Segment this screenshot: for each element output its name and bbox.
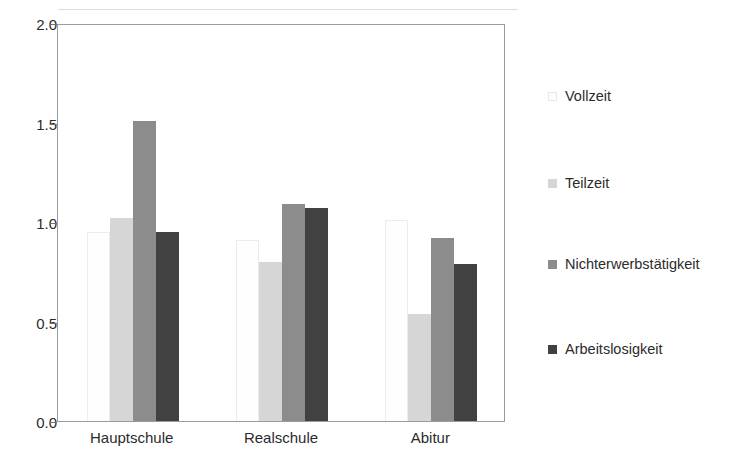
bar-group (58, 25, 207, 421)
legend-item: Teilzeit (548, 176, 609, 191)
legend-label: Nichterwerbstätigkeit (565, 257, 700, 272)
x-tick-label: Realschule (244, 430, 318, 445)
bar (282, 204, 305, 421)
y-tick-mark (50, 124, 57, 125)
bar-group (357, 25, 506, 421)
legend-swatch-icon (548, 345, 557, 354)
chart-legend: VollzeitTeilzeitNichterwerbstätigkeitArb… (548, 24, 735, 422)
legend-label: Vollzeit (565, 89, 611, 104)
legend-item: Arbeitslosigkeit (548, 342, 663, 357)
bar (87, 232, 110, 421)
legend-swatch-icon (548, 92, 557, 101)
y-tick-mark (50, 24, 57, 25)
bar (431, 238, 454, 421)
x-tick-label: Hauptschule (90, 430, 173, 445)
legend-label: Teilzeit (565, 176, 609, 191)
bar-group (207, 25, 356, 421)
bar (133, 121, 156, 421)
bar (236, 240, 259, 421)
bar (305, 208, 328, 421)
legend-swatch-icon (548, 260, 557, 269)
y-axis: 0.00.51.01.52.0 (0, 24, 57, 422)
legend-swatch-icon (548, 179, 557, 188)
y-tick-mark (50, 323, 57, 324)
x-tick-label: Abitur (411, 430, 450, 445)
legend-label: Arbeitslosigkeit (565, 342, 663, 357)
y-tick-mark (50, 422, 57, 423)
bar (259, 262, 282, 421)
legend-item: Nichterwerbstätigkeit (548, 257, 700, 272)
bar (408, 314, 431, 421)
legend-item: Vollzeit (548, 89, 611, 104)
bar (156, 232, 179, 421)
bar (385, 220, 408, 421)
bar (454, 264, 477, 421)
scan-artifact-line (58, 9, 518, 10)
y-tick-mark (50, 223, 57, 224)
bar (110, 218, 133, 421)
plot-area (57, 24, 505, 422)
chart-figure: 0.00.51.01.52.0 HauptschuleRealschuleAbi… (0, 0, 735, 463)
